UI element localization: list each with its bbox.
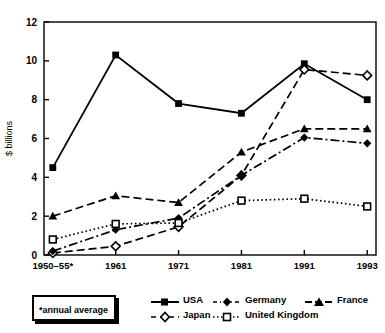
legend-label-germany: Germany <box>242 294 286 305</box>
y-axis-title: $ billions <box>4 120 14 156</box>
legend-item-japan[interactable]: Japan <box>150 309 212 321</box>
data-point-japan <box>363 71 372 80</box>
y-axis-tick-label: 8 <box>31 94 37 105</box>
legend-entries: USA Germany <box>150 292 385 322</box>
legend-item-usa[interactable]: USA <box>150 294 212 306</box>
data-point-germany <box>363 139 371 147</box>
legend-key-france-icon <box>304 294 334 306</box>
data-point-united-kingdom <box>238 197 245 204</box>
data-point-united-kingdom <box>49 236 56 243</box>
x-axis-tick-label: 1971 <box>168 260 190 271</box>
data-point-france <box>237 148 246 156</box>
series-line-usa <box>53 55 367 168</box>
y-axis-tick-label: 6 <box>31 133 37 144</box>
y-axis-tick-label: 4 <box>31 172 37 183</box>
legend-row-2: Japan United Kingdom <box>150 307 385 322</box>
legend-item-france[interactable]: France <box>304 294 384 306</box>
y-axis-tick-label: 12 <box>26 17 38 28</box>
legend-label-united-kingdom: United Kingdom <box>242 309 318 320</box>
data-point-usa <box>49 164 56 171</box>
data-point-usa <box>364 96 371 103</box>
data-point-united-kingdom <box>301 195 308 202</box>
legend-label-japan: Japan <box>180 309 210 320</box>
series-line-germany <box>53 138 367 252</box>
series-line-united-kingdom <box>53 199 367 240</box>
legend-key-usa-icon <box>150 294 180 306</box>
data-point-germany <box>300 133 308 141</box>
x-axis-tick-label: 1991 <box>294 260 316 271</box>
chart-plot-area: 024681012$ billions1950–55*1961197119811… <box>0 0 385 288</box>
series-group <box>48 52 371 258</box>
data-point-united-kingdom <box>112 221 119 228</box>
legend-label-france: France <box>334 294 368 305</box>
legend-key-japan-icon <box>150 309 180 321</box>
data-point-united-kingdom <box>175 220 182 227</box>
legend-row-1: USA Germany <box>150 292 385 307</box>
annual-average-note: *annual average <box>32 295 116 321</box>
line-chart: 024681012$ billions1950–55*1961197119811… <box>0 0 385 288</box>
data-point-japan <box>111 242 120 251</box>
x-axis-tick-label: 1950–55* <box>32 260 73 271</box>
series-line-france <box>53 129 367 216</box>
legend-item-germany[interactable]: Germany <box>212 294 304 306</box>
legend-item-united-kingdom[interactable]: United Kingdom <box>212 309 342 321</box>
legend-label-usa: USA <box>180 294 203 305</box>
data-point-france <box>111 191 120 199</box>
data-point-united-kingdom <box>364 203 371 210</box>
annual-average-note-label: *annual average <box>39 305 108 315</box>
chart-page: 024681012$ billions1950–55*1961197119811… <box>0 0 385 333</box>
series-line-japan <box>53 70 367 253</box>
y-axis-tick-label: 10 <box>26 55 38 66</box>
x-axis-tick-label: 1961 <box>105 260 127 271</box>
data-point-usa <box>175 100 182 107</box>
chart-legend: *annual average USA <box>0 288 385 333</box>
legend-key-germany-icon <box>212 294 242 306</box>
y-axis-tick-label: 2 <box>31 211 37 222</box>
data-point-usa <box>112 52 119 59</box>
data-point-usa <box>238 110 245 117</box>
x-axis-tick-label: 1993 <box>357 260 378 271</box>
y-axis-tick-label: 0 <box>31 250 37 261</box>
legend-key-united-kingdom-icon <box>212 309 242 321</box>
x-axis-tick-label: 1981 <box>231 260 253 271</box>
